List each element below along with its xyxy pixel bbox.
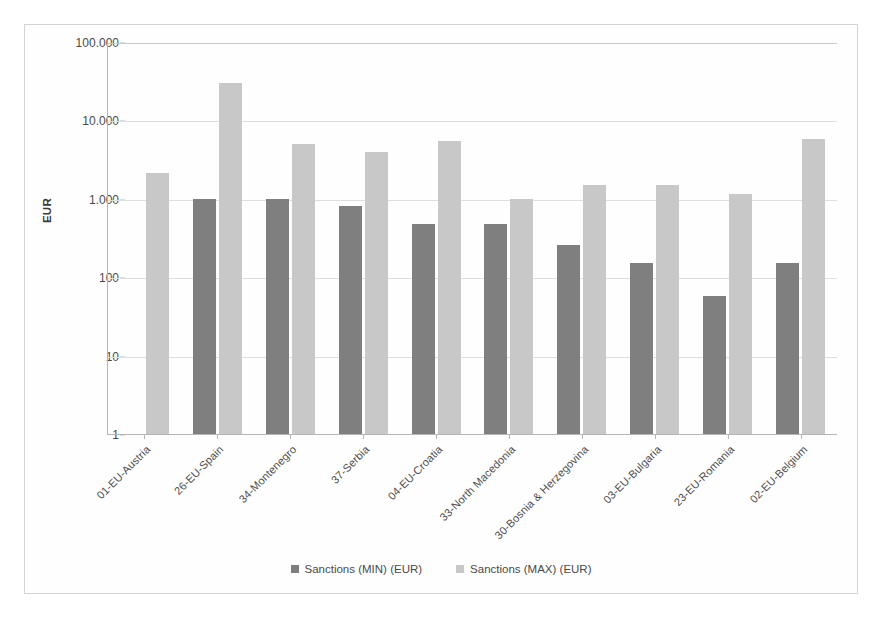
bar-group: [327, 43, 400, 434]
x-axis-category-label: 37-Serbia: [328, 443, 371, 486]
bar-sanctions-min[interactable]: [703, 296, 726, 434]
bar-sanctions-min[interactable]: [776, 263, 799, 434]
bar-group: [618, 43, 691, 434]
bar-series-container: [108, 43, 837, 434]
bar-sanctions-max[interactable]: [802, 139, 825, 434]
bar-sanctions-min[interactable]: [630, 263, 653, 434]
y-axis-title: EUR: [41, 203, 53, 223]
x-axis-category-label: 26-EU-Spain: [171, 443, 225, 497]
x-axis-label-slot: 01-EU-Austria: [107, 439, 180, 559]
bar-sanctions-max[interactable]: [729, 194, 752, 434]
bar-sanctions-max[interactable]: [292, 144, 315, 434]
legend-swatch-icon: [291, 565, 299, 573]
chart-plot-wrapper: EUR 100.00010.0001.000100101 01-EU-Austr…: [25, 25, 857, 593]
bar-group: [400, 43, 473, 434]
legend-label: Sanctions (MIN) (EUR): [305, 563, 423, 575]
bar-sanctions-max[interactable]: [365, 152, 388, 434]
bar-sanctions-min[interactable]: [339, 206, 362, 434]
bar-sanctions-min[interactable]: [484, 224, 507, 434]
bar-sanctions-min[interactable]: [193, 199, 216, 434]
bar-group: [473, 43, 546, 434]
x-axis-label-slot: 02-EU-Belgium: [764, 439, 837, 559]
bar-group: [545, 43, 618, 434]
bar-sanctions-max[interactable]: [510, 199, 533, 434]
x-axis-category-labels: 01-EU-Austria26-EU-Spain34-Montenegro37-…: [107, 439, 837, 559]
bar-group: [764, 43, 837, 434]
bar-group: [691, 43, 764, 434]
x-axis-label-slot: 34-Montenegro: [253, 439, 326, 559]
x-axis-label-slot: 37-Serbia: [326, 439, 399, 559]
plot-area: [107, 43, 837, 435]
bar-sanctions-min[interactable]: [412, 224, 435, 434]
legend-item[interactable]: Sanctions (MAX) (EUR): [456, 563, 591, 575]
chart-frame: EUR 100.00010.0001.000100101 01-EU-Austr…: [24, 24, 858, 594]
chart-legend: Sanctions (MIN) (EUR)Sanctions (MAX) (EU…: [25, 563, 857, 575]
bar-sanctions-max[interactable]: [583, 185, 606, 434]
bar-sanctions-max[interactable]: [146, 173, 169, 434]
bar-sanctions-max[interactable]: [438, 141, 461, 434]
legend-item[interactable]: Sanctions (MIN) (EUR): [291, 563, 423, 575]
bar-group: [254, 43, 327, 434]
bar-sanctions-min[interactable]: [557, 245, 580, 434]
bar-sanctions-min[interactable]: [266, 199, 289, 434]
bar-group: [108, 43, 181, 434]
bar-sanctions-max[interactable]: [219, 83, 242, 434]
legend-label: Sanctions (MAX) (EUR): [470, 563, 591, 575]
bar-group: [181, 43, 254, 434]
bar-sanctions-max[interactable]: [656, 185, 679, 434]
legend-swatch-icon: [456, 565, 464, 573]
